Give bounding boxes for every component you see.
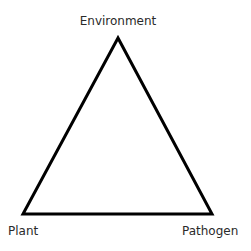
- environment-label: Environment: [0, 14, 236, 28]
- disease-triangle-diagram: Environment Plant Pathogen: [0, 0, 251, 251]
- pathogen-label: Pathogen: [182, 224, 238, 238]
- triangle-outline: [23, 38, 212, 214]
- plant-label: Plant: [8, 224, 38, 238]
- triangle-shape: [0, 0, 251, 251]
